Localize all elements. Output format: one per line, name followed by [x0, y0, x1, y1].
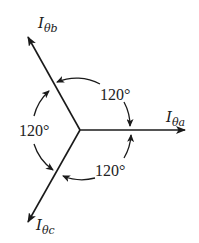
arc-b-c-top [34, 91, 49, 116]
arc-a-b [57, 78, 100, 84]
phasor-diagram: Iθa Iθb Iθc 120° 120° 120° [0, 0, 199, 243]
phasor-c-vector [28, 130, 80, 222]
phasor-b-label: Iθb [37, 14, 58, 35]
angle-label-a-b: 120° [100, 86, 130, 103]
angle-label-b-c: 120° [19, 122, 49, 139]
arc-a-b-right [124, 102, 130, 126]
angle-label-c-a: 120° [95, 162, 125, 179]
arc-b-c-bottom [34, 144, 53, 170]
phasor-b-vector [28, 37, 80, 130]
phasor-c-label: Iθc [35, 216, 55, 237]
arc-c-a-bottom [63, 176, 95, 180]
phasor-a-label: Iθa [165, 108, 185, 129]
arc-c-a-right [124, 135, 131, 158]
